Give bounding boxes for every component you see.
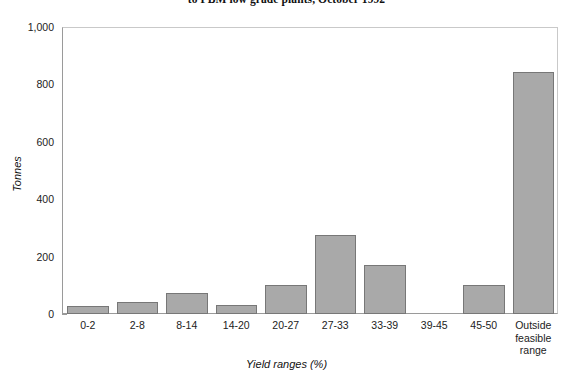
x-axis-tick-label: 33-39 xyxy=(360,319,410,332)
bar xyxy=(463,285,505,314)
x-axis-tick-label-line: 45-50 xyxy=(459,319,509,332)
bar xyxy=(513,72,555,315)
bar-slot xyxy=(113,27,163,314)
x-axis-tick-label: 45-50 xyxy=(459,319,509,332)
bar-slot xyxy=(162,27,212,314)
x-axis-tick-label-line: range xyxy=(509,344,559,357)
y-axis-tick-label: 200 xyxy=(36,252,54,262)
bar-slot xyxy=(360,27,410,314)
y-axis: 02004006008001,000 xyxy=(0,0,62,383)
bar-series xyxy=(63,27,558,314)
bar xyxy=(265,285,307,314)
y-axis-tick-mark xyxy=(62,314,67,315)
x-axis-tick-label-line: 14-20 xyxy=(212,319,262,332)
x-axis-tick-label-line: 2-8 xyxy=(113,319,163,332)
bar-slot xyxy=(63,27,113,314)
x-axis-tick-label-line: Outside xyxy=(509,319,559,332)
bar xyxy=(364,265,406,314)
x-axis-tick-label-line: feasible xyxy=(509,332,559,345)
bar xyxy=(117,302,159,314)
x-axis-tick-label: Outsidefeasiblerange xyxy=(509,319,559,357)
bar-slot xyxy=(459,27,509,314)
y-axis-tick-label: 1,000 xyxy=(28,22,54,32)
x-axis-tick-label: 27-33 xyxy=(311,319,361,332)
x-axis-tick-label-line: 0-2 xyxy=(63,319,113,332)
y-axis-title: Tonnes xyxy=(11,139,23,209)
x-axis-tick-label: 39-45 xyxy=(410,319,460,332)
bar-slot xyxy=(509,27,559,314)
x-axis-tick-label: 2-8 xyxy=(113,319,163,332)
bar-slot xyxy=(311,27,361,314)
bar xyxy=(166,293,208,314)
bar-slot xyxy=(410,27,460,314)
x-axis-tick-label: 14-20 xyxy=(212,319,262,332)
x-axis-tick-label-line: 8-14 xyxy=(162,319,212,332)
x-axis-tick-label: 8-14 xyxy=(162,319,212,332)
x-axis-tick-label: 20-27 xyxy=(261,319,311,332)
y-axis-tick-label: 600 xyxy=(36,137,54,147)
bar xyxy=(315,235,357,314)
x-axis-title: Yield ranges (%) xyxy=(0,358,573,370)
y-axis-tick-label: 0 xyxy=(48,309,54,319)
chart-title: to PBM low grade plants, October 1992 xyxy=(0,0,573,6)
bar-slot xyxy=(212,27,262,314)
x-axis-tick-label: 0-2 xyxy=(63,319,113,332)
y-axis-tick-label: 800 xyxy=(36,79,54,89)
x-axis-tick-label-line: 39-45 xyxy=(410,319,460,332)
x-axis-tick-label-line: 20-27 xyxy=(261,319,311,332)
x-axis-tick-label-line: 27-33 xyxy=(311,319,361,332)
x-axis-tick-label-line: 33-39 xyxy=(360,319,410,332)
bar-slot xyxy=(261,27,311,314)
bar xyxy=(216,305,258,314)
bar xyxy=(67,306,109,314)
bar-chart-figure: to PBM low grade plants, October 1992 02… xyxy=(0,0,573,383)
y-axis-tick-label: 400 xyxy=(36,194,54,204)
